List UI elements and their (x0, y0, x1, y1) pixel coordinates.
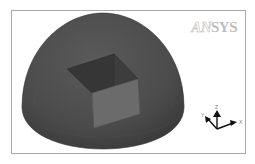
triad-y-label: Y (201, 112, 204, 118)
coordinate-triad (205, 110, 237, 129)
graphics-viewport[interactable]: ANSYS Z Y X (11, 10, 246, 154)
triad-z-label: Z (215, 104, 218, 110)
triad-x-label: X (239, 119, 242, 125)
ansys-logo: ANSYS (191, 19, 237, 36)
